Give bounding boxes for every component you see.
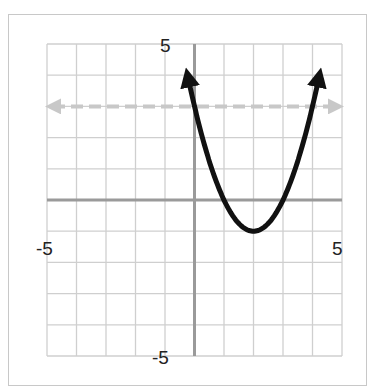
x-max-label: 5 — [332, 239, 343, 258]
plot-area — [0, 0, 375, 391]
x-min-label: -5 — [36, 239, 53, 258]
y-min-label: -5 — [152, 348, 169, 367]
y-max-label: 5 — [160, 36, 171, 55]
